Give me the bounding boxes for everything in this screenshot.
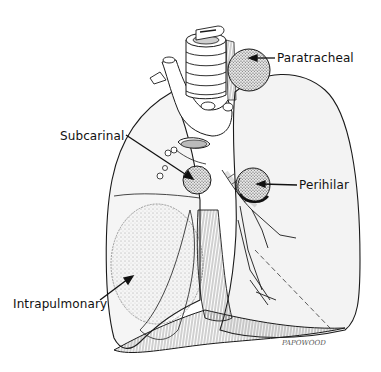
subcarinal-node [183,166,211,194]
artist-signature: PAPOWOOD [282,339,326,347]
label-subcarinal: Subcarinal [60,129,124,143]
paratracheal-node [228,49,270,91]
trachea [186,26,236,100]
label-intrapulmonary: Intrapulmonary [13,297,107,311]
label-paratracheal: Paratracheal [277,51,354,65]
esophagus [197,210,232,321]
lymph-node-diagram: Paratracheal Subcarinal Perihilar Intrap… [0,0,381,372]
right-lung [220,74,360,337]
label-perihilar: Perihilar [299,178,349,192]
